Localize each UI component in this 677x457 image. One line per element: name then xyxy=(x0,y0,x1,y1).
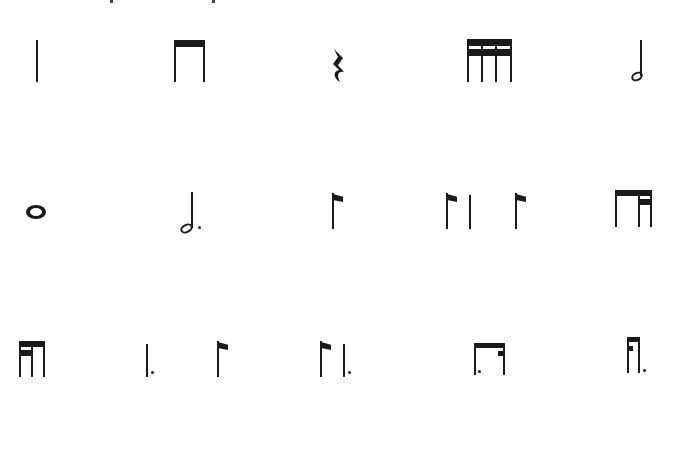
single-eighth-note-icon: Single eighth note xyxy=(332,193,346,231)
eighth-dotted-quarter-icon: Eighth and dotted quarter xyxy=(319,341,355,379)
dotted-quarter-eighth-icon: Dotted quarter and eighth xyxy=(145,341,231,379)
eighth-two-sixteenths-icon: Eighth and two sixteenths (ti-tika) xyxy=(615,190,653,230)
sixteenth-dotted-eighth-icon: Sixteenth and dotted eighth (ti-kam) xyxy=(626,337,650,377)
quarter-rest-icon: Quarter rest xyxy=(330,48,348,84)
cropped-fragment xyxy=(212,0,215,3)
dotted-half-note-icon: Dotted half note (ta-a-a) xyxy=(176,190,204,234)
two-eighth-notes-icon: Two beamed eighth notes (ti-ti) xyxy=(174,40,206,84)
whole-note-icon: Whole note (ta-a-a-a) xyxy=(26,205,50,221)
dotted-eighth-sixteenth-icon: Dotted eighth and sixteenth (tim-ka) xyxy=(473,343,507,379)
syncopation-icon: Eighth - quarter - eighth (syncopa) xyxy=(445,193,531,231)
quarter-note-icon: Quarter note (ta) xyxy=(30,38,46,84)
four-sixteenth-notes-icon: Four beamed sixteenth notes (tika-tika) xyxy=(467,39,513,83)
cropped-fragment xyxy=(110,0,113,3)
half-note-icon: Half note (ta-a) xyxy=(630,38,646,84)
two-sixteenths-eighth-icon: Two sixteenths and eighth (tika-ti) xyxy=(19,341,47,379)
